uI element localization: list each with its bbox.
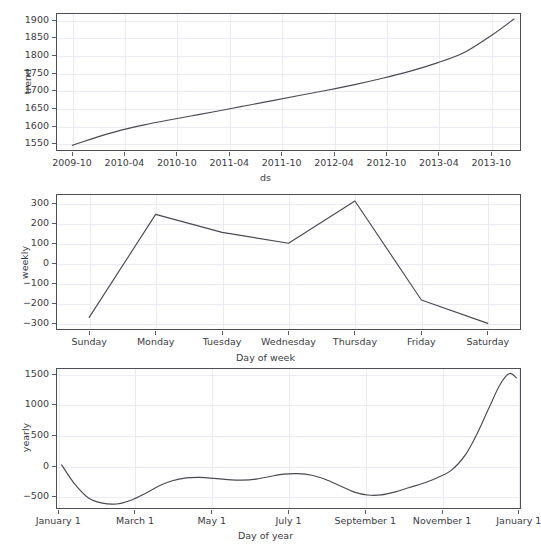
x-tick-label: Thursday	[333, 336, 377, 347]
y-tick-mark	[52, 466, 56, 467]
x-tick-label: 2013-04	[419, 157, 459, 168]
x-tick-label: January 1	[36, 515, 81, 526]
x-tick-mark	[155, 331, 156, 335]
y-tick-label: 1600	[25, 121, 49, 131]
x-tick-label: 2009-10	[52, 157, 92, 168]
weekly-subplot: −300−200−1000100200300SundayMondayTuesda…	[0, 190, 531, 360]
x-tick-label: 2010-10	[157, 157, 197, 168]
x-tick-mark	[222, 331, 223, 335]
x-tick-mark	[58, 510, 59, 514]
yearly-x-axis-label: Day of year	[0, 530, 531, 541]
data-line	[72, 19, 514, 145]
y-tick-label: 100	[31, 238, 49, 248]
y-tick-mark	[52, 223, 56, 224]
x-tick-label: 2010-04	[105, 157, 145, 168]
y-tick-mark	[52, 126, 56, 127]
trend-y-axis-label: trend	[22, 52, 33, 112]
y-tick-label: 0	[43, 258, 49, 268]
y-tick-mark	[52, 20, 56, 21]
x-tick-mark	[134, 510, 135, 514]
x-tick-label: 2011-04	[209, 157, 249, 168]
x-tick-mark	[438, 152, 439, 156]
x-tick-label: Friday	[407, 336, 436, 347]
x-tick-label: November 1	[413, 515, 471, 526]
y-tick-mark	[52, 374, 56, 375]
x-tick-label: March 1	[116, 515, 154, 526]
x-tick-mark	[229, 152, 230, 156]
x-tick-label: 2012-10	[367, 157, 407, 168]
y-tick-label: −300	[23, 318, 49, 328]
y-tick-label: 0	[43, 461, 49, 471]
y-tick-mark	[52, 404, 56, 405]
y-tick-mark	[52, 108, 56, 109]
x-tick-label: May 1	[197, 515, 226, 526]
x-tick-mark	[334, 152, 335, 156]
y-tick-mark	[52, 73, 56, 74]
x-tick-label: 2013-10	[471, 157, 511, 168]
x-tick-mark	[211, 510, 212, 514]
x-tick-mark	[124, 152, 125, 156]
x-tick-label: Tuesday	[203, 336, 242, 347]
y-tick-label: 200	[31, 218, 49, 228]
y-tick-label: 500	[31, 430, 49, 440]
x-tick-label: July 1	[275, 515, 301, 526]
y-tick-mark	[52, 55, 56, 56]
x-tick-mark	[442, 510, 443, 514]
x-tick-mark	[288, 331, 289, 335]
y-tick-mark	[52, 323, 56, 324]
yearly-subplot: −500050010001500January 1March 1May 1Jul…	[0, 360, 531, 546]
y-tick-label: 1550	[25, 138, 49, 148]
x-tick-label: 2011-10	[262, 157, 302, 168]
x-tick-mark	[354, 331, 355, 335]
x-tick-label: Monday	[137, 336, 175, 347]
y-tick-mark	[52, 37, 56, 38]
weekly-line-series	[0, 190, 531, 360]
y-tick-mark	[52, 243, 56, 244]
y-tick-label: −200	[23, 298, 49, 308]
y-tick-label: 1900	[25, 15, 49, 25]
x-tick-label: September 1	[334, 515, 396, 526]
x-tick-label: Saturday	[466, 336, 509, 347]
y-tick-label: 1850	[25, 32, 49, 42]
y-tick-mark	[52, 496, 56, 497]
trend-subplot: 155016001650170017501800185019002009-102…	[0, 0, 531, 190]
y-tick-mark	[52, 90, 56, 91]
yearly-y-axis-label: yearly	[20, 408, 31, 468]
weekly-y-axis-label: weekly	[19, 233, 30, 293]
x-tick-mark	[365, 510, 366, 514]
data-line	[89, 201, 488, 323]
x-tick-mark	[288, 510, 289, 514]
x-tick-mark	[487, 331, 488, 335]
y-tick-mark	[52, 283, 56, 284]
x-tick-mark	[72, 152, 73, 156]
y-tick-label: −500	[23, 491, 49, 501]
x-tick-mark	[386, 152, 387, 156]
data-line	[62, 373, 517, 504]
y-tick-mark	[52, 435, 56, 436]
y-tick-label: 300	[31, 198, 49, 208]
x-tick-mark	[518, 510, 519, 514]
x-tick-mark	[176, 152, 177, 156]
x-tick-mark	[89, 331, 90, 335]
x-tick-label: 2012-04	[314, 157, 354, 168]
y-tick-label: 1500	[25, 369, 49, 379]
y-tick-mark	[52, 263, 56, 264]
y-tick-mark	[52, 143, 56, 144]
x-tick-mark	[491, 152, 492, 156]
y-tick-mark	[52, 303, 56, 304]
y-tick-mark	[52, 203, 56, 204]
x-tick-label: Sunday	[71, 336, 107, 347]
x-tick-mark	[421, 331, 422, 335]
x-tick-label: January 1	[496, 515, 541, 526]
x-tick-mark	[281, 152, 282, 156]
trend-x-axis-label: ds	[0, 172, 531, 183]
x-tick-label: Wednesday	[261, 336, 316, 347]
